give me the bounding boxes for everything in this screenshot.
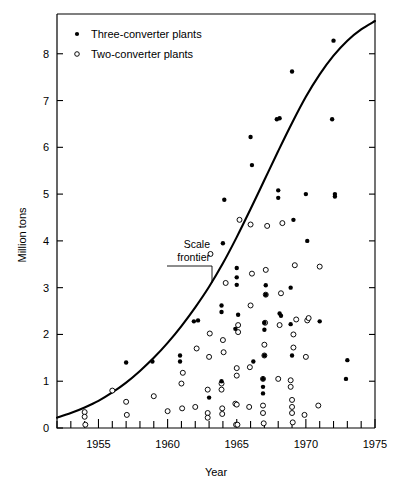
- data-point: [262, 321, 266, 325]
- data-point: [288, 322, 292, 326]
- y-axis-tick-labels: 012345678: [43, 48, 49, 434]
- data-point: [303, 354, 308, 359]
- data-point: [236, 323, 241, 328]
- data-point: [221, 350, 226, 355]
- data-point: [83, 422, 88, 427]
- annotation-line-2: frontier: [177, 251, 210, 263]
- data-point: [248, 135, 252, 139]
- data-point: [219, 303, 223, 307]
- data-point: [236, 313, 240, 317]
- data-point: [290, 397, 295, 402]
- data-point: [294, 317, 299, 322]
- y-axis-title: Million tons: [16, 207, 28, 263]
- data-point: [292, 263, 297, 268]
- data-point: [220, 406, 225, 411]
- data-point: [235, 422, 240, 427]
- data-point: [333, 194, 337, 198]
- y-tick-label: 3: [43, 282, 49, 294]
- data-point: [288, 285, 292, 289]
- data-point: [291, 332, 296, 337]
- data-point: [265, 223, 270, 228]
- data-point: [219, 379, 223, 383]
- data-point: [234, 366, 239, 371]
- data-point: [248, 303, 253, 308]
- annotation-leader-line: [167, 266, 212, 283]
- data-point: [247, 404, 252, 409]
- data-point: [196, 318, 200, 322]
- data-point: [124, 360, 128, 364]
- data-point: [151, 394, 156, 399]
- data-point: [249, 271, 254, 276]
- data-point: [220, 338, 225, 343]
- y-tick-label: 6: [43, 141, 49, 153]
- data-point: [290, 353, 294, 357]
- x-axis-ticks: [57, 419, 375, 428]
- data-point: [178, 359, 182, 363]
- data-point: [193, 404, 198, 409]
- data-point: [318, 319, 322, 323]
- x-axis-tick-labels: 19551960196519701975: [86, 438, 387, 450]
- data-point: [261, 411, 266, 416]
- y-tick-label: 1: [43, 375, 49, 387]
- data-point: [290, 411, 295, 416]
- data-point: [262, 342, 267, 347]
- data-point: [330, 117, 334, 121]
- data-point: [165, 409, 170, 414]
- data-point: [317, 264, 322, 269]
- data-point: [237, 217, 242, 222]
- data-point: [234, 373, 239, 378]
- x-tick-label: 1955: [86, 438, 110, 450]
- data-point: [223, 280, 228, 285]
- data-point: [278, 291, 283, 296]
- x-tick-label: 1960: [155, 438, 179, 450]
- data-point: [248, 222, 253, 227]
- data-point: [194, 346, 199, 351]
- y-tick-label: 5: [43, 188, 49, 200]
- data-point: [192, 319, 196, 323]
- data-point: [261, 385, 265, 389]
- data-point: [251, 359, 255, 363]
- legend-marker-filled-circle-icon: [75, 32, 79, 36]
- data-point: [290, 420, 295, 425]
- y-axis-ticks: [57, 54, 375, 428]
- data-point: [220, 411, 225, 416]
- data-point: [290, 404, 295, 409]
- data-point: [276, 376, 281, 381]
- y-tick-label: 2: [43, 328, 49, 340]
- data-point: [263, 267, 268, 272]
- data-point: [180, 406, 185, 411]
- data-point: [82, 414, 87, 419]
- data-point: [178, 353, 182, 357]
- data-point: [277, 116, 281, 120]
- data-point: [233, 327, 237, 331]
- data-point: [222, 198, 226, 202]
- data-point: [316, 403, 321, 408]
- data-point: [344, 377, 348, 381]
- x-tick-label: 1970: [294, 438, 318, 450]
- data-point: [180, 370, 185, 375]
- chart-figure: 012345678 19551960196519701975 Million t…: [0, 0, 402, 486]
- x-tick-label: 1965: [224, 438, 248, 450]
- data-point: [276, 196, 280, 200]
- legend-label-three-converter: Three-converter plants: [91, 28, 202, 40]
- data-point: [250, 163, 254, 167]
- data-point: [262, 328, 266, 332]
- data-point: [331, 38, 335, 42]
- data-point: [150, 359, 154, 363]
- data-point: [345, 358, 349, 362]
- data-point: [279, 314, 283, 318]
- data-point: [305, 239, 309, 243]
- data-point: [276, 188, 280, 192]
- data-point: [304, 192, 308, 196]
- data-point: [124, 399, 129, 404]
- y-tick-label: 0: [43, 422, 49, 434]
- data-point: [280, 221, 285, 226]
- data-point: [219, 387, 224, 392]
- data-point: [264, 292, 268, 296]
- legend-label-two-converter: Two-converter plants: [91, 48, 194, 60]
- data-point: [207, 354, 212, 359]
- data-point: [277, 323, 282, 328]
- data-point: [235, 275, 239, 279]
- chart-legend: Three-converter plants Two-converter pla…: [75, 28, 202, 60]
- data-point: [234, 402, 239, 407]
